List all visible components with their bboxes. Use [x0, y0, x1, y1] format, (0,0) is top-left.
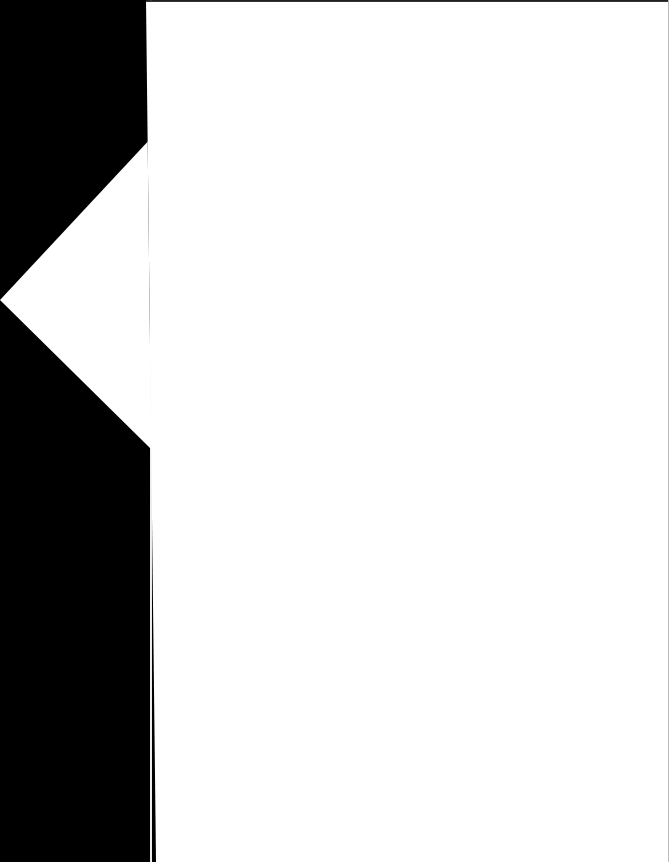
app-root — [0, 0, 669, 862]
top-border-line — [146, 0, 669, 2]
chevron-left-icon[interactable] — [0, 138, 151, 449]
rail-content-divider — [150, 0, 152, 862]
left-nav-rail — [0, 0, 156, 862]
content-body — [156, 3, 666, 862]
